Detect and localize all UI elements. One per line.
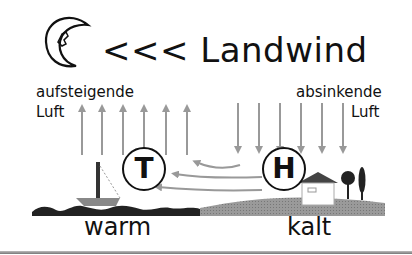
rising-air-label-line1: aufsteigende bbox=[36, 82, 134, 102]
title-arrows: <<< bbox=[102, 30, 189, 70]
diagram-title: <<< Landwind bbox=[102, 30, 368, 70]
warm-zone-label: warm bbox=[84, 213, 151, 241]
land-breeze-arrows bbox=[158, 162, 262, 190]
divider bbox=[0, 251, 412, 254]
title-text: Landwind bbox=[200, 30, 367, 70]
low-pressure-symbol: T bbox=[122, 147, 166, 191]
sinking-air-arrows bbox=[238, 103, 343, 150]
sailboat-icon bbox=[76, 162, 120, 206]
high-pressure-symbol: H bbox=[262, 147, 306, 191]
landwind-diagram: <<< Landwind aufsteigende Luft absinkend… bbox=[0, 0, 412, 255]
sinking-air-label-line1: absinkende bbox=[296, 82, 382, 102]
rising-air-label-line2: Luft bbox=[36, 102, 65, 122]
sinking-air-label-line2: Luft bbox=[351, 102, 380, 122]
cold-zone-label: kalt bbox=[287, 213, 331, 241]
trees-icon bbox=[341, 167, 366, 200]
crescent-moon-icon bbox=[46, 18, 88, 66]
